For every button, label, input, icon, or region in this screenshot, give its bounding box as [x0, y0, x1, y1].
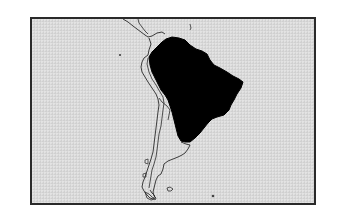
east-coastline-argentina: [153, 142, 190, 200]
caribbean-island: [190, 24, 191, 30]
central-america-coastline-2: [138, 19, 148, 34]
south-america-map: [32, 19, 316, 205]
map-frame: [30, 17, 316, 205]
map-figure: [0, 0, 337, 224]
south-georgia: [212, 195, 215, 198]
highlighted-country-brazil: [149, 37, 243, 142]
central-america-coastline: [123, 19, 165, 37]
galapagos-islands: [119, 54, 121, 56]
falkland-islands: [167, 187, 173, 191]
